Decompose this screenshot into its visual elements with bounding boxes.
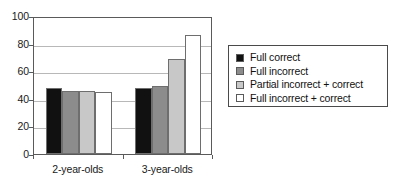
plot-area (33, 17, 212, 155)
x-tick-label: 3-year-olds (117, 163, 217, 175)
x-tick-mark (212, 155, 213, 159)
y-tick-label: 20 (1, 120, 29, 132)
legend-item-label: Full incorrect (250, 65, 308, 78)
legend-swatch-icon (236, 94, 244, 102)
bar (79, 91, 96, 154)
x-tick-label: 2-year-olds (28, 163, 128, 175)
legend-item-label: Partial incorrect + correct (250, 78, 363, 91)
legend-item-label: Full incorrect + correct (250, 92, 351, 105)
legend-swatch-icon (236, 67, 244, 75)
legend-item: Partial incorrect + correct (236, 78, 387, 91)
y-tick-label: 80 (1, 38, 29, 50)
legend-swatch-icon (236, 81, 244, 89)
y-tick-label: 100 (1, 10, 29, 22)
bar (95, 92, 112, 154)
legend-swatch-icon (236, 54, 244, 62)
y-tick-label: 40 (1, 93, 29, 105)
x-tick-mark (123, 155, 124, 159)
bar (185, 35, 202, 154)
bar (46, 88, 63, 154)
legend-item-label: Full correct (250, 51, 300, 64)
bar (152, 86, 169, 154)
bar (168, 59, 185, 154)
x-tick-mark (33, 155, 34, 159)
y-tick-label: 60 (1, 65, 29, 77)
legend-item: Full incorrect + correct (236, 92, 387, 105)
y-tick-label: 0 (1, 148, 29, 160)
legend-item: Full incorrect (236, 65, 387, 78)
legend-item: Full correct (236, 51, 387, 64)
bar (62, 91, 79, 154)
chart-legend: Full correctFull incorrectPartial incorr… (228, 45, 388, 107)
bar (135, 88, 152, 154)
bar-chart-figure: 020406080100 2-year-olds3-year-olds Full… (0, 0, 409, 190)
